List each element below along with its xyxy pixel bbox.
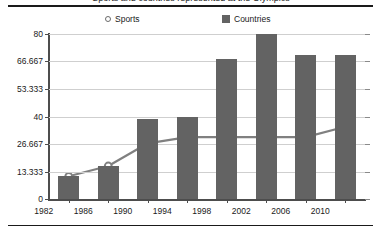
y-axis-tick (45, 172, 49, 173)
x-axis-label: 2010 (295, 206, 345, 216)
filled-square-icon (222, 15, 230, 23)
y-axis-tick (45, 89, 49, 90)
x-axis-tick (148, 199, 149, 203)
x-axis-tick (69, 199, 70, 203)
bar-countries-1990[interactable] (137, 119, 158, 199)
y-axis-tick-right (365, 199, 370, 200)
y-axis-label: 53.333 (0, 84, 43, 94)
bar-countries-2006[interactable] (295, 55, 316, 199)
top-rule-divider (8, 5, 373, 7)
y-axis-tick-right (365, 144, 370, 145)
gridline (49, 172, 365, 173)
gridline (49, 144, 365, 145)
legend-item-sports[interactable]: Sports (105, 14, 140, 24)
y-axis-tick (45, 61, 49, 62)
y-axis-tick-right (365, 89, 370, 90)
y-axis-tick (45, 34, 49, 35)
open-circle-icon (105, 16, 111, 22)
y-axis-tick-right (365, 172, 370, 173)
figure-caption-text: Sports and countries represented at the … (22, 0, 360, 3)
gridline (49, 61, 365, 62)
plot-area: 013.33326.6674053.33366.6678019821986199… (49, 34, 365, 199)
bar-countries-1986[interactable] (98, 166, 119, 199)
bar-countries-1982[interactable] (58, 176, 79, 199)
x-axis-tick (187, 199, 188, 203)
y-axis-tick (45, 144, 49, 145)
x-axis-tick (345, 199, 346, 203)
figure-caption-clipped: Sports and countries represented at the … (22, 0, 360, 4)
y-axis-tick-right (365, 117, 370, 118)
chart-legend: Sports Countries (0, 13, 381, 27)
bar-countries-1994[interactable] (177, 117, 198, 200)
bar-countries-1998[interactable] (216, 59, 237, 199)
gridline (49, 34, 365, 35)
legend-item-countries[interactable]: Countries (222, 14, 270, 24)
y-axis-tick-right (365, 61, 370, 62)
y-axis-label: 40 (0, 112, 43, 122)
x-axis-tick (266, 199, 267, 203)
bar-countries-2002[interactable] (256, 34, 277, 199)
y-axis-label: 13.333 (0, 167, 43, 177)
gridline (49, 89, 365, 90)
chart-figure: Sports and countries represented at the … (0, 0, 381, 232)
y-axis-label: 0 (0, 194, 43, 204)
x-axis-tick (108, 199, 109, 203)
y-axis-label: 66.667 (0, 56, 43, 66)
bar-countries-2010[interactable] (335, 55, 356, 199)
gridline (49, 117, 365, 118)
y-axis-tick (45, 117, 49, 118)
x-axis-tick (227, 199, 228, 203)
y-axis-tick-right (365, 34, 370, 35)
legend-label-countries: Countries (234, 14, 270, 24)
y-axis-label: 80 (0, 29, 43, 39)
legend-label-sports: Sports (115, 14, 140, 24)
x-axis-line (48, 199, 366, 201)
y-axis-tick (45, 199, 49, 200)
x-axis-tick (306, 199, 307, 203)
y-axis-label: 26.667 (0, 139, 43, 149)
bottom-rule-divider (8, 225, 373, 226)
